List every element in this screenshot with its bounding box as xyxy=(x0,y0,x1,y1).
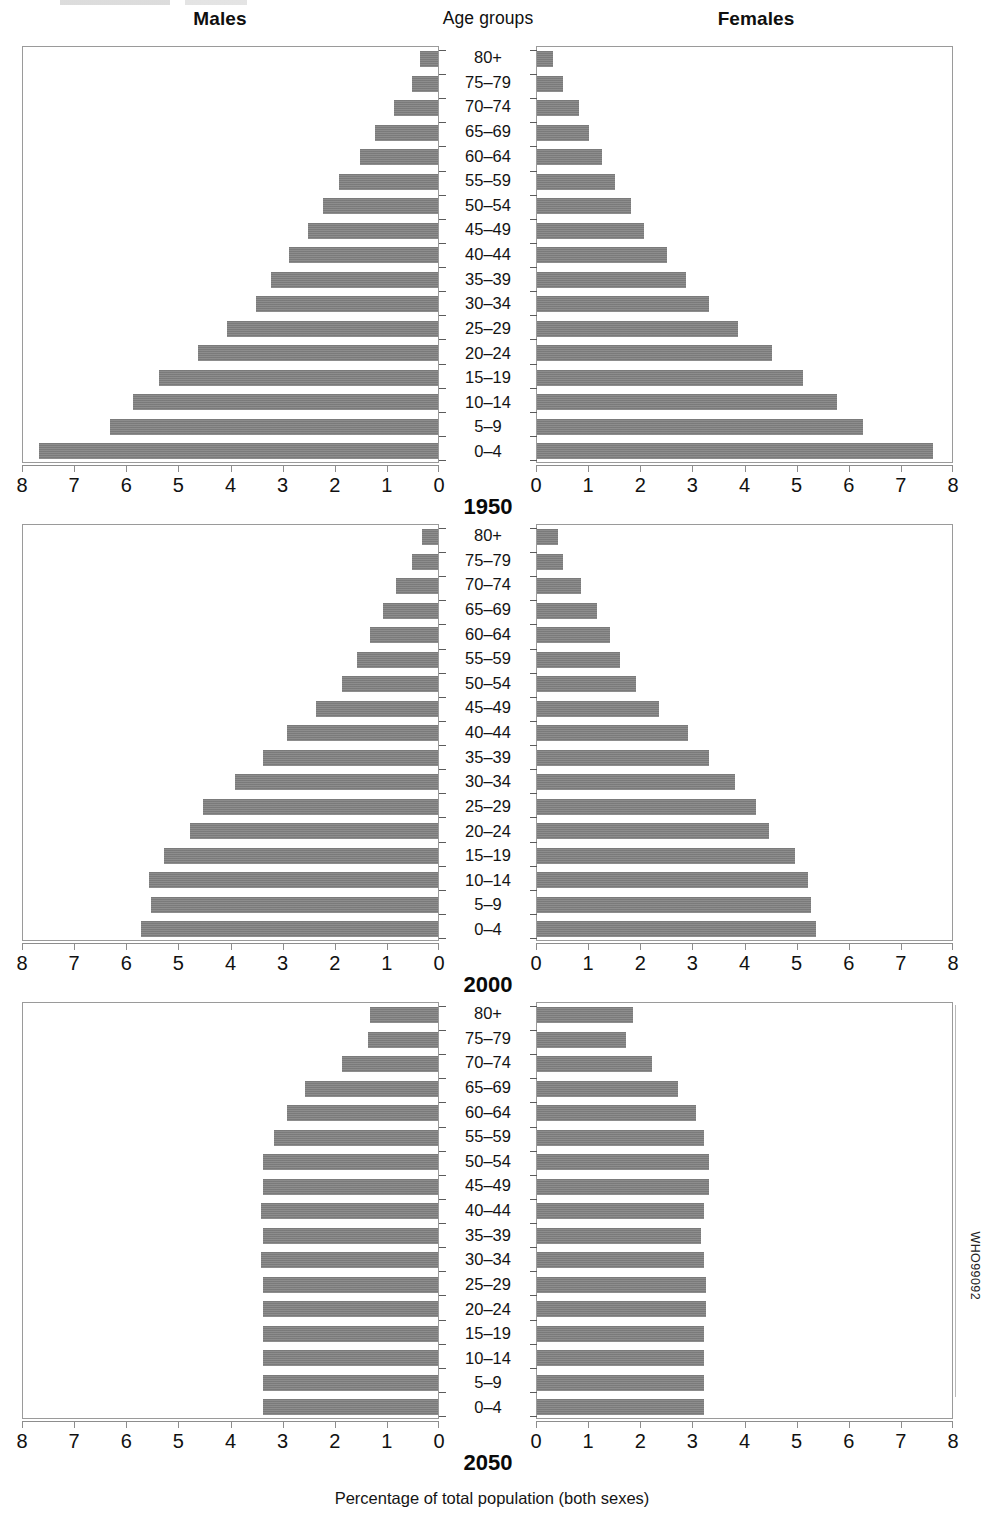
tick-mark xyxy=(439,890,446,891)
age-group-label: 5–9 xyxy=(446,896,530,913)
male-bar-55-59 xyxy=(274,1130,438,1146)
bar-row xyxy=(537,578,952,594)
bar-row xyxy=(23,676,438,692)
axis-tick xyxy=(849,1421,850,1428)
female-bar-65-69 xyxy=(537,1081,678,1097)
female-bar-55-59 xyxy=(537,1130,704,1146)
tick-mark xyxy=(439,171,446,172)
tick-mark xyxy=(439,1344,446,1345)
male-bar-25-29 xyxy=(227,321,438,337)
axis-tick xyxy=(126,465,127,472)
bar-row xyxy=(23,1081,438,1097)
axis-tick-label: 6 xyxy=(834,952,864,975)
age-group-label: 35–39 xyxy=(446,749,530,766)
male-bar-70-74 xyxy=(396,578,438,594)
age-group-label: 0–4 xyxy=(446,1399,530,1416)
bar-row xyxy=(23,1007,438,1023)
axis-tick-label: 1 xyxy=(573,1430,603,1453)
male-bar-35-39 xyxy=(271,272,438,288)
bar-row xyxy=(23,76,438,92)
age-group-label: 15–19 xyxy=(446,369,530,386)
tick-mark xyxy=(439,1030,446,1031)
tick-mark xyxy=(530,745,537,746)
axis-tick xyxy=(178,1421,179,1428)
female-bar-50-54 xyxy=(537,676,636,692)
bar-row xyxy=(537,897,952,913)
tick-mark xyxy=(530,600,537,601)
female-bar-45-49 xyxy=(537,223,644,239)
right-x-axis-1950: 012345678 xyxy=(536,465,953,513)
axis-tick xyxy=(22,943,23,950)
bar-row xyxy=(537,1179,952,1195)
axis-tick xyxy=(588,1421,589,1428)
age-group-label: 80+ xyxy=(446,49,530,66)
female-bar-75-79 xyxy=(537,1032,626,1048)
female-bar-55-59 xyxy=(537,652,620,668)
tick-mark xyxy=(530,74,537,75)
inner-ticks-right xyxy=(530,524,537,941)
age-group-label: 55–59 xyxy=(446,650,530,667)
age-group-label: 10–14 xyxy=(446,1350,530,1367)
tick-mark xyxy=(530,98,537,99)
female-bar-50-54 xyxy=(537,198,631,214)
tick-mark xyxy=(530,890,537,891)
axis-tick xyxy=(22,1421,23,1428)
tick-mark xyxy=(530,817,537,818)
male-bar-35-39 xyxy=(263,1228,438,1244)
age-group-label: 15–19 xyxy=(446,847,530,864)
axis-tick xyxy=(536,943,537,950)
female-bar-0-4 xyxy=(537,1399,704,1415)
axis-tick-label: 8 xyxy=(7,952,37,975)
female-bar-30-34 xyxy=(537,296,709,312)
male-bar-65-69 xyxy=(375,125,438,141)
tick-mark xyxy=(439,1295,446,1296)
axis-tick-label: 3 xyxy=(268,474,298,497)
axis-tick xyxy=(952,1421,953,1428)
male-bar-15-19 xyxy=(159,370,438,386)
axis-tick xyxy=(901,943,902,950)
tick-mark xyxy=(530,1392,537,1393)
bar-row xyxy=(537,247,952,263)
bar-row xyxy=(537,1277,952,1293)
tick-mark xyxy=(530,624,537,625)
female-bar-35-39 xyxy=(537,1228,701,1244)
tick-mark xyxy=(439,339,446,340)
female-bar-70-74 xyxy=(537,1056,652,1072)
chart-header: Males Age groups Females xyxy=(0,8,984,34)
female-bar-70-74 xyxy=(537,578,581,594)
axis-tick-label: 4 xyxy=(216,1430,246,1453)
female-bar-60-64 xyxy=(537,627,610,643)
age-group-label: 40–44 xyxy=(446,246,530,263)
tick-mark xyxy=(530,528,537,529)
tick-mark xyxy=(439,576,446,577)
tick-mark xyxy=(439,673,446,674)
female-bar-10-14 xyxy=(537,1350,704,1366)
bar-row xyxy=(23,174,438,190)
axis-tick-label: 3 xyxy=(268,952,298,975)
tick-mark xyxy=(439,842,446,843)
age-groups-header: Age groups xyxy=(440,8,536,29)
left-x-axis-2050: 876543210 xyxy=(22,1421,439,1469)
male-bar-5-9 xyxy=(263,1375,438,1391)
tick-mark xyxy=(530,1006,537,1007)
axis-tick-label: 2 xyxy=(320,474,350,497)
tick-mark xyxy=(530,1054,537,1055)
age-group-label: 0–4 xyxy=(446,921,530,938)
axis-tick-label: 6 xyxy=(111,952,141,975)
female-bar-45-49 xyxy=(537,1179,709,1195)
age-group-label: 40–44 xyxy=(446,724,530,741)
tick-mark xyxy=(439,600,446,601)
tick-mark xyxy=(530,1368,537,1369)
pyramid-panel-2050: 80+75–7970–7465–6960–6455–5950–5445–4940… xyxy=(0,1002,984,1482)
tick-mark xyxy=(439,528,446,529)
age-group-label: 70–74 xyxy=(446,98,530,115)
female-bar-20-24 xyxy=(537,345,772,361)
axis-tick xyxy=(74,1421,75,1428)
tick-mark xyxy=(530,842,537,843)
female-bar-50-54 xyxy=(537,1154,709,1170)
tick-mark xyxy=(439,388,446,389)
axis-tick-label: 6 xyxy=(111,474,141,497)
inner-ticks-right xyxy=(530,1002,537,1419)
male-bar-5-9 xyxy=(110,419,438,435)
inner-ticks-left xyxy=(439,1002,446,1419)
